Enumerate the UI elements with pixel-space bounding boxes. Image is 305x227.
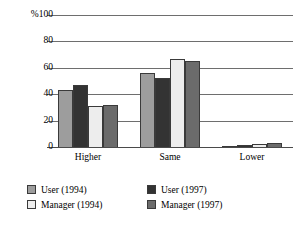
legend-label-1: User (1997): [161, 185, 207, 195]
chart-legend: User (1994)User (1997)Manager (1994)Mana…: [27, 182, 277, 212]
legend-swatch-icon-2: [27, 200, 36, 209]
bar-same-series-3: [185, 61, 200, 147]
legend-swatch-icon-1: [147, 185, 156, 194]
bar-same-series-0: [140, 73, 155, 147]
bar-group-higher: [47, 15, 129, 147]
bar-higher-series-1: [73, 85, 88, 147]
bar-same-series-2: [170, 59, 185, 147]
gridline-0: [47, 147, 293, 148]
bar-higher-series-3: [103, 105, 118, 147]
legend-entry-1: User (1997): [147, 182, 259, 197]
bar-lower-series-0: [222, 146, 237, 147]
legend-swatch-icon-3: [147, 200, 156, 209]
x-tick-label-higher: Higher: [47, 152, 129, 163]
bar-chart-figure: %100806040200 HigherSameLower User (1994…: [0, 0, 305, 227]
legend-entry-2: Manager (1994): [27, 197, 139, 212]
bar-higher-series-2: [88, 106, 103, 147]
bar-group-lower: [211, 15, 293, 147]
legend-entry-3: Manager (1997): [147, 197, 259, 212]
bar-lower-series-3: [267, 143, 282, 147]
legend-label-3: Manager (1997): [161, 200, 222, 210]
x-tick-label-lower: Lower: [211, 152, 293, 163]
legend-entry-0: User (1994): [27, 182, 139, 197]
x-tick-label-same: Same: [129, 152, 211, 163]
legend-label-0: User (1994): [41, 185, 87, 195]
bar-lower-series-2: [252, 144, 267, 147]
bars-layer: [47, 15, 293, 147]
legend-swatch-icon-0: [27, 185, 36, 194]
bar-lower-series-1: [237, 145, 252, 147]
bar-same-series-1: [155, 78, 170, 147]
legend-label-2: Manager (1994): [41, 200, 102, 210]
bar-group-same: [129, 15, 211, 147]
bar-higher-series-0: [58, 90, 73, 147]
